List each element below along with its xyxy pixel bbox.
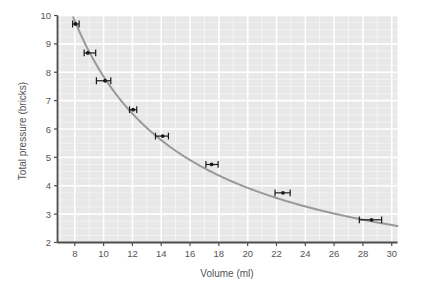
y-tick-label: 3: [46, 209, 51, 220]
y-tick-label: 7: [46, 95, 51, 106]
y-tick-label: 4: [46, 180, 51, 191]
x-tick-label: 20: [242, 248, 253, 259]
x-tick-label: 12: [127, 248, 138, 259]
x-tick-label: 28: [358, 248, 369, 259]
x-tick-label: 24: [300, 248, 311, 259]
x-tick-label: 22: [271, 248, 282, 259]
x-tick-label: 10: [98, 248, 109, 259]
y-tick-label: 8: [46, 67, 51, 78]
x-tick-label: 16: [185, 248, 196, 259]
chart-figure: 81012141618202224262830 2345678910 Volum…: [0, 0, 421, 291]
x-tick-label: 14: [156, 248, 167, 259]
y-tick-label: 6: [46, 124, 51, 135]
y-tick-label: 9: [46, 38, 51, 49]
x-tick-label: 18: [214, 248, 225, 259]
x-tick-label: 8: [72, 248, 77, 259]
y-axis-title: Total pressure (bricks): [17, 82, 28, 180]
y-tick-label: 5: [46, 152, 51, 163]
x-tick-label: 26: [329, 248, 340, 259]
y-tick-label: 10: [40, 10, 51, 21]
x-tick-label: 30: [386, 248, 397, 259]
x-axis-title: Volume (ml): [200, 268, 253, 279]
y-tick-label: 2: [46, 237, 51, 248]
pressure-volume-chart: 81012141618202224262830 2345678910 Volum…: [0, 0, 421, 291]
